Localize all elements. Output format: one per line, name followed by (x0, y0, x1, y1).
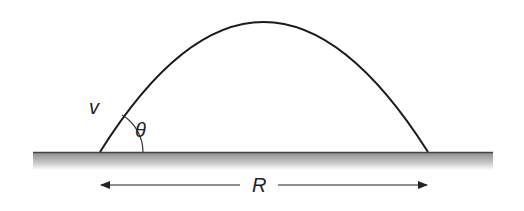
velocity-label: v (89, 96, 100, 118)
projectile-diagram: v θ R (0, 0, 524, 211)
diagram-svg: v θ R (0, 0, 524, 211)
angle-label: θ (135, 119, 146, 141)
range-label: R (252, 174, 266, 196)
ground (33, 152, 493, 170)
trajectory-arc (100, 22, 428, 152)
